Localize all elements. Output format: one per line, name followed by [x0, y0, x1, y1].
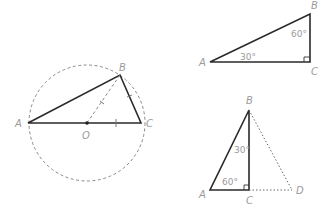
- segment-ob: [87, 75, 120, 123]
- label-a: A: [14, 118, 22, 129]
- right-triangle-figure: A B C 30° 60°: [198, 0, 318, 77]
- angle-a-label: 60°: [222, 177, 238, 187]
- angle-a-label: 30°: [240, 52, 256, 62]
- label-b: B: [246, 95, 253, 106]
- geometry-diagram: A B C O A B C 30° 60° B A C D 60° 30°: [0, 0, 334, 214]
- label-o: O: [82, 130, 90, 141]
- label-c: C: [146, 118, 153, 129]
- reflected-triangle-figure: B A C D 60° 30°: [198, 95, 304, 206]
- label-b: B: [119, 62, 126, 73]
- center-point-o: [85, 121, 89, 125]
- label-c: C: [246, 195, 253, 206]
- label-c: C: [311, 66, 318, 77]
- label-b: B: [311, 0, 318, 11]
- angle-b-label: 60°: [291, 29, 307, 39]
- circle-figure: A B C O: [14, 62, 153, 181]
- angle-b-label: 30°: [234, 145, 250, 155]
- label-a: A: [198, 57, 206, 68]
- label-d: D: [296, 185, 304, 196]
- segment-bd: [249, 110, 292, 190]
- label-a: A: [198, 189, 206, 200]
- triangle-abc: [28, 75, 141, 123]
